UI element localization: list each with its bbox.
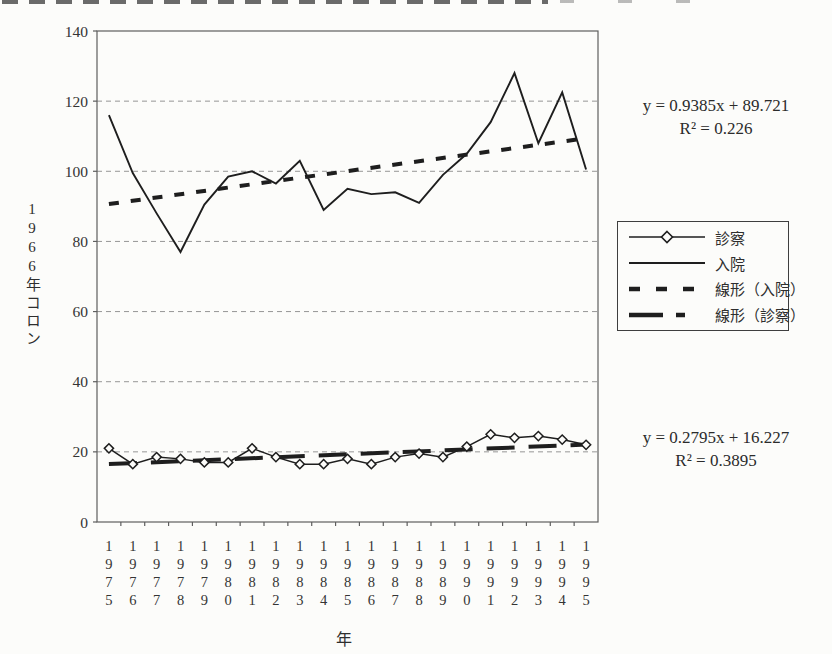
legend-label: 線形（入院） (715, 278, 805, 299)
svg-text:1990: 1990 (463, 538, 470, 608)
legend-label: 入院 (715, 253, 745, 274)
svg-text:1995: 1995 (582, 538, 589, 608)
svg-text:1976: 1976 (129, 538, 136, 608)
svg-text:1987: 1987 (392, 538, 399, 608)
scanned-chart-page: 1401201008060402001975197619771978197919… (0, 0, 832, 654)
svg-text:0: 0 (80, 514, 88, 531)
bold-dash-swatch-icon (628, 282, 706, 296)
svg-text:1980: 1980 (225, 538, 232, 608)
y-axis-title: 1966年コロン (24, 201, 39, 349)
r-squared-text: R² = 0.3895 (600, 449, 832, 472)
bold-longdash-swatch-icon (628, 308, 706, 322)
svg-text:80: 80 (73, 233, 89, 250)
solid-line-swatch-icon (628, 256, 706, 270)
x-axis-title: 年 (336, 626, 352, 650)
svg-text:1994: 1994 (559, 538, 567, 608)
legend-item-consultation: 診察 (628, 227, 788, 248)
svg-text:1983: 1983 (296, 538, 303, 608)
legend-item-linear-consultation: 線形（診察） (628, 304, 788, 325)
svg-text:60: 60 (73, 303, 89, 320)
svg-text:1989: 1989 (439, 538, 446, 608)
svg-text:100: 100 (65, 163, 89, 180)
trendline-equation-hospitalization: y = 0.9385x + 89.721 R² = 0.226 (600, 94, 832, 140)
svg-text:1977: 1977 (153, 538, 160, 608)
svg-text:1975: 1975 (105, 538, 112, 608)
svg-text:20: 20 (73, 443, 89, 460)
svg-text:1981: 1981 (248, 538, 255, 608)
svg-text:40: 40 (73, 373, 89, 390)
r-squared-text: R² = 0.226 (600, 117, 832, 140)
svg-text:1985: 1985 (344, 538, 351, 608)
svg-text:1984: 1984 (320, 538, 328, 608)
trendline-equation-consultation: y = 0.2795x + 16.227 R² = 0.3895 (600, 426, 832, 472)
svg-text:1982: 1982 (272, 538, 279, 608)
svg-text:1992: 1992 (511, 538, 518, 608)
svg-text:1986: 1986 (368, 538, 375, 608)
svg-text:1993: 1993 (535, 538, 542, 608)
line-diamond-swatch-icon (628, 230, 706, 244)
svg-text:1978: 1978 (177, 538, 184, 608)
svg-text:1991: 1991 (487, 538, 494, 608)
chart-legend: 診察 入院 線形（入院） 線形（診察） (617, 221, 789, 331)
svg-text:140: 140 (65, 23, 89, 40)
legend-item-hospitalization: 入院 (628, 253, 788, 274)
equation-text: y = 0.2795x + 16.227 (600, 426, 832, 449)
legend-label: 線形（診察） (715, 304, 805, 325)
equation-text: y = 0.9385x + 89.721 (600, 94, 832, 117)
legend-item-linear-hospitalization: 線形（入院） (628, 278, 788, 299)
legend-label: 診察 (715, 227, 745, 248)
svg-text:1988: 1988 (415, 538, 422, 608)
svg-text:1979: 1979 (201, 538, 208, 608)
svg-text:120: 120 (65, 93, 89, 110)
